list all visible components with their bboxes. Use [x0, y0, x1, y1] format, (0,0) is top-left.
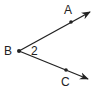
ray-ba	[19, 12, 90, 51]
vertex-point-b	[17, 49, 21, 53]
point-a	[69, 20, 73, 24]
angle-label: 2	[31, 44, 38, 58]
point-label-c: C	[61, 75, 70, 89]
point-label-a: A	[64, 3, 72, 17]
angle-figure: B 2 A C	[0, 0, 98, 91]
point-c	[64, 68, 68, 72]
vertex-label-b: B	[4, 44, 12, 58]
angle-diagram: B 2 A C	[0, 0, 98, 91]
ray-bc	[19, 51, 88, 79]
